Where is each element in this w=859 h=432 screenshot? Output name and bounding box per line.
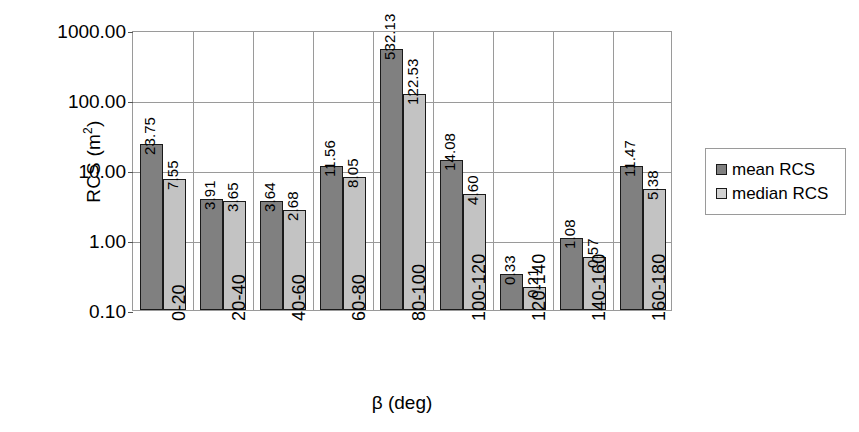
- vertical-gridline: [433, 32, 434, 310]
- legend-item-median[interactable]: median RCS: [716, 181, 835, 205]
- bar-value-label: 7.55: [165, 160, 180, 190]
- bar-value-label: 3.91: [202, 180, 217, 210]
- x-axis-tick-label-0-20: 0-20: [170, 284, 188, 321]
- y-axis-tick-mark: [128, 102, 133, 103]
- x-axis-tick-label-100-120: 100-120: [470, 254, 488, 321]
- y-axis-tick-label: 1.00: [0, 232, 126, 251]
- bar-mean-80-100[interactable]: [380, 49, 403, 310]
- bar-value-label: 0.33: [502, 255, 517, 285]
- bar-mean-160-180[interactable]: [620, 166, 643, 310]
- y-axis-tick-mark: [128, 312, 133, 313]
- bar-mean-40-60[interactable]: [260, 201, 283, 310]
- y-axis-tick-mark: [128, 242, 133, 243]
- bar-value-label: 5.38: [645, 170, 660, 200]
- bar-value-label: 8.05: [345, 158, 360, 188]
- x-axis-tick-label-120-140: 120-140: [530, 254, 548, 321]
- y-axis-tick-mark: [128, 32, 133, 33]
- vertical-gridline: [253, 32, 254, 310]
- x-axis-tick-label-80-100: 80-100: [410, 264, 428, 321]
- bar-value-label: 3.64: [262, 182, 277, 212]
- rcs-bar-chart: RCS (m2) 1000.00100.0010.001.000.10 23.7…: [0, 0, 859, 432]
- legend-swatch-median-icon: [716, 188, 727, 199]
- x-axis-tick-label-20-40: 20-40: [230, 274, 248, 321]
- bar-value-label: 23.75: [142, 117, 157, 155]
- bar-mean-20-40[interactable]: [200, 199, 223, 310]
- vertical-gridline: [313, 32, 314, 310]
- x-axis-tick-label-140-160: 140-160: [590, 254, 608, 321]
- bar-value-label: 122.53: [405, 58, 420, 104]
- bar-group-20-40: 3.913.65: [200, 32, 246, 310]
- bar-mean-100-120[interactable]: [440, 160, 463, 310]
- bar-mean-60-80[interactable]: [320, 166, 343, 310]
- legend-swatch-mean-icon: [716, 164, 727, 175]
- bar-group-60-80: 11.568.05: [320, 32, 366, 310]
- legend-label-mean: mean RCS: [732, 161, 815, 178]
- bar-group-40-60: 3.642.68: [260, 32, 306, 310]
- bar-value-label: 2.68: [285, 191, 300, 221]
- bar-value-label: 11.56: [322, 140, 337, 177]
- vertical-gridline: [493, 32, 494, 310]
- bar-mean-0-20[interactable]: [140, 144, 163, 310]
- x-axis-title: β (deg): [132, 392, 672, 414]
- x-axis-tick-label-60-80: 60-80: [350, 274, 368, 321]
- x-axis-tick-label-160-180: 160-180: [650, 254, 668, 321]
- bar-value-label: 532.13: [382, 14, 397, 60]
- y-axis-tick-label: 0.10: [0, 302, 126, 321]
- vertical-gridline: [373, 32, 374, 310]
- vertical-gridline: [553, 32, 554, 310]
- bar-value-label: 11.47: [622, 140, 637, 177]
- vertical-gridline: [193, 32, 194, 310]
- legend-label-median: median RCS: [732, 185, 828, 202]
- bar-group-0-20: 23.757.55: [140, 32, 186, 310]
- vertical-gridline: [613, 32, 614, 310]
- bar-value-label: 4.60: [465, 175, 480, 205]
- y-axis-tick-label: 1000.00: [0, 22, 126, 41]
- bar-value-label: 14.08: [442, 133, 457, 171]
- bar-value-label: 3.65: [225, 182, 240, 212]
- y-axis-tick-label: 10.00: [0, 162, 126, 181]
- y-axis-tick-mark: [128, 172, 133, 173]
- legend-item-mean[interactable]: mean RCS: [716, 157, 835, 181]
- x-axis-tick-label-40-60: 40-60: [290, 274, 308, 321]
- y-axis-tick-label: 100.00: [0, 92, 126, 111]
- y-axis-tick-labels: 1000.00100.0010.001.000.10: [0, 0, 126, 432]
- bar-value-label: 1.08: [562, 219, 577, 249]
- chart-legend: mean RCSmedian RCS: [705, 148, 846, 215]
